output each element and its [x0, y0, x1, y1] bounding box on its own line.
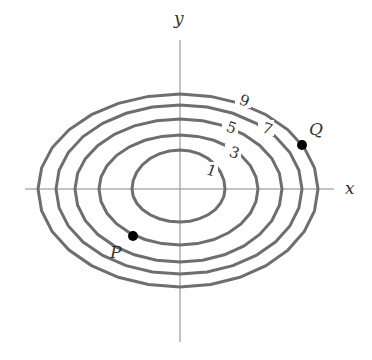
y-axis-label: y [173, 8, 184, 28]
point-label-q: Q [309, 119, 323, 139]
contour-level-9 [38, 94, 318, 287]
point-label-p: P [109, 242, 122, 262]
point-p [128, 231, 138, 241]
contour-level-5 [75, 119, 282, 262]
x-axis-label: x [345, 178, 355, 198]
point-q [297, 140, 307, 150]
contour-labels: 13579 [202, 90, 275, 180]
contour-plot: 13579 QP x y [0, 0, 372, 360]
contour-lines [38, 94, 318, 287]
